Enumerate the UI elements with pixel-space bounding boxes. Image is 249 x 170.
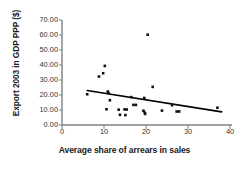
scatter-chart: Export 2003 in GDP PPP ($) 0.0010.0020.0… [0,0,249,170]
data-point [86,93,89,96]
x-axis-tick-label: 20 [134,128,158,135]
x-axis-tick-label: 10 [92,128,116,135]
x-axis-title: Average share of arrears in sales [0,145,249,155]
data-point [125,108,128,111]
x-axis-tick-label: 30 [176,128,200,135]
data-point [105,108,108,111]
data-point [98,75,101,78]
data-point [130,96,133,99]
x-axis-tick-label: 40 [218,128,242,135]
data-point [135,104,138,107]
data-point [117,108,120,111]
data-point [178,110,181,113]
x-axis-tick-labels: 010203040 [0,128,249,142]
data-point [143,97,146,100]
data-point [216,106,219,109]
data-point [132,104,135,107]
data-point [124,114,127,117]
x-axis-tick-label: 0 [50,128,74,135]
data-point [151,86,154,89]
data-point [144,113,147,116]
data-point [102,72,105,75]
data-point [175,110,178,113]
data-point [146,33,149,36]
data-point [107,92,110,95]
data-point [171,104,174,107]
data-point [161,109,164,112]
data-point [109,99,112,102]
data-point [104,65,107,68]
data-point [119,114,122,117]
